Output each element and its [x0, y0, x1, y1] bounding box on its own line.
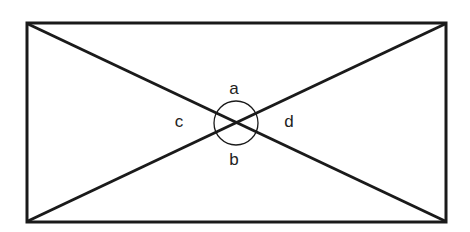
angle-label-a: a	[229, 79, 239, 98]
angle-label-b: b	[229, 150, 238, 169]
angle-label-d: d	[284, 112, 293, 131]
angle-label-c: c	[175, 112, 184, 131]
diagram-canvas: a b c d	[0, 0, 470, 232]
